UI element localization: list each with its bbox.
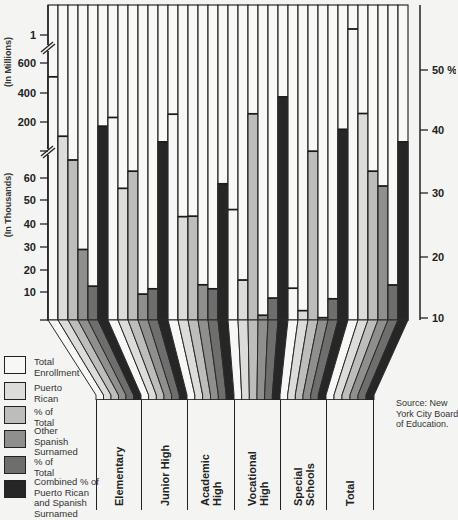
bar [358,114,368,320]
right-axis-tick-label: 20 [432,251,444,263]
left-axis-tick-label: 40 [24,218,36,230]
left-axis-tick-label: 10 [24,286,36,298]
bar [248,114,258,320]
bar [308,151,318,320]
legend-swatch [4,480,26,498]
legend-swatch [4,406,26,424]
bar [168,114,178,320]
bar [178,217,188,320]
bar [268,298,278,320]
bar [198,285,208,320]
bar-column [288,5,298,320]
category-vocational-high: Vocational High [234,400,280,510]
category-label: Total [344,481,356,506]
bar [288,288,298,320]
bar [148,289,158,320]
funnel-strip [248,320,258,400]
legend-label: Puerto Rican [34,383,62,404]
legend-swatch [4,356,26,374]
bar [218,184,228,320]
bar [348,29,358,320]
bar-column [258,5,268,320]
bar-column [328,5,338,320]
bar [378,186,388,320]
bar-column [208,5,218,320]
bar [88,286,98,320]
left-axis-tick-label: 200 [18,116,36,128]
bar [388,285,398,320]
bar [128,171,138,320]
millions-axis-label: (In Millions) [3,37,13,87]
bar [98,126,108,320]
bar [298,311,308,320]
bar [338,129,348,320]
category-total: Total [326,400,374,510]
legend: Total Enrollment Puerto Rican % of Total… [2,354,98,520]
category-elementary: Elementary [96,400,141,510]
bar [138,294,148,320]
chart-area: 1600400200605040302010(In Millions)(In T… [0,0,456,400]
category-label: Special Schools [292,463,316,506]
legend-label: Combined % of Puerto Rican and Spanish S… [34,477,99,519]
bar [118,188,128,320]
bar-column [148,5,158,320]
legend-swatch [4,382,26,400]
bar [78,250,88,321]
category-academic-high: Academic High [187,400,234,510]
legend-item-other-spanish: Other Spanish Surnamed [2,430,98,456]
legend-item-total-enrollment: Total Enrollment [2,354,98,382]
category-label: Vocational High [246,451,270,506]
category-junior-high: Junior High [141,400,187,510]
source-note: Source: New York City Board of Education… [396,398,456,430]
bar-column [198,5,208,320]
right-axis-tick-label: 50 % [432,64,456,76]
bar-column [318,5,328,320]
bar [188,216,198,320]
bar [108,117,118,320]
category-label: Academic High [199,454,223,506]
bar [238,280,248,320]
category-label: Junior High [159,445,171,506]
bar [158,142,168,320]
left-axis-tick-label: 20 [24,264,36,276]
bar [48,77,58,320]
bar-column [138,5,148,320]
right-axis-tick-label: 30 [432,187,444,199]
legend-label: Total Enrollment [34,357,79,378]
bar-column [88,5,98,320]
thousands-axis-label: (In Thousands) [3,173,13,238]
category-label: Elementary [113,447,125,506]
bar [58,136,68,320]
bar-column [298,5,308,320]
legend-swatch [4,456,26,474]
bar [368,171,378,320]
left-axis-tick-label: 30 [24,241,36,253]
legend-label: Other Spanish Surnamed [34,426,78,458]
bar [208,289,218,320]
bar [68,160,78,320]
left-axis-tick-label: 600 [18,57,36,69]
legend-item-puerto-rican: Puerto Rican [2,382,98,406]
category-special-schools: Special Schools [280,400,326,510]
legend-item-combined-percent: Combined % of Puerto Rican and Spanish S… [2,480,98,520]
left-axis-tick-label: 400 [18,87,36,99]
bar [278,97,288,320]
right-axis-tick-label: 40 [432,124,444,136]
bar [398,142,408,320]
left-axis-tick-label: 1 [30,29,36,41]
bar [328,299,338,320]
legend-label: % of Total [34,457,54,478]
right-axis-tick-label: 10 [432,312,444,324]
legend-swatch [4,430,26,448]
bar [228,210,238,320]
bar-column [388,5,398,320]
bar-column [238,5,248,320]
left-axis-tick-label: 60 [24,172,36,184]
left-axis-tick-label: 50 [24,194,36,206]
bar-column [268,5,278,320]
